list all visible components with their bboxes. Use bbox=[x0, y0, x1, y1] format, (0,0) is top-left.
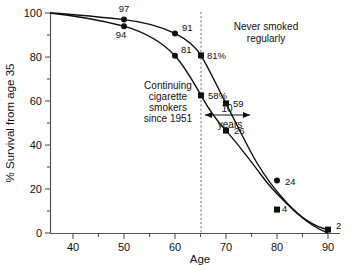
y-tick-label-20: 20 bbox=[30, 183, 42, 195]
annotation-smokers-line3: smokers bbox=[149, 102, 187, 113]
point-label-smokers-age60: 81 bbox=[181, 44, 192, 55]
annotation-smokers-line4: since 1951 bbox=[144, 113, 193, 124]
point-label-smokers-age50: 94 bbox=[116, 29, 127, 40]
data-point-smokers-age90 bbox=[274, 207, 280, 213]
x-tick-label-60: 60 bbox=[169, 241, 181, 253]
data-point-smokers-age60 bbox=[172, 53, 178, 59]
data-point-never-smoked-age90 bbox=[274, 177, 280, 183]
chart-plot-area: 100 80 60 40 20 0 40 50 60 70 80 90 Age … bbox=[0, 0, 354, 265]
data-point-never-smoked-age50 bbox=[121, 17, 127, 23]
x-tick-label-40: 40 bbox=[67, 241, 79, 253]
data-point-never-smoked-age100 bbox=[325, 227, 331, 233]
point-label-never-smoked-age80: 59 bbox=[233, 98, 244, 109]
point-label-never-smoked-age50: 97 bbox=[119, 3, 130, 14]
annotation-smokers-line1: Continuing bbox=[144, 80, 192, 91]
data-point-never-smoked-age60 bbox=[172, 30, 178, 36]
data-point-smokers-age70 bbox=[198, 92, 204, 98]
data-point-never-smoked-age70 bbox=[198, 52, 204, 58]
x-tick-label-90: 90 bbox=[322, 241, 334, 253]
x-axis-title: Age bbox=[190, 253, 210, 265]
point-label-never-smoked-age90: 24 bbox=[285, 176, 296, 187]
y-tick-label-40: 40 bbox=[30, 139, 42, 151]
x-axis bbox=[51, 234, 341, 240]
y-axis-title: % Survival from age 35 bbox=[4, 64, 16, 183]
y-tick-label-80: 80 bbox=[30, 51, 42, 63]
y-tick-label-0: 0 bbox=[36, 227, 42, 239]
point-label-never-smoked-age60: 91 bbox=[182, 22, 193, 33]
annotation-gap-years-unit: years bbox=[218, 119, 242, 130]
point-label-smokers-age90: 4 bbox=[282, 203, 287, 214]
x-tick-label-50: 50 bbox=[118, 241, 130, 253]
point-label-never-smoked-age100: 2 bbox=[336, 220, 341, 231]
x-tick-label-70: 70 bbox=[220, 241, 232, 253]
annotation-never-smoked-line1: Never smoked bbox=[234, 21, 298, 32]
point-label-never-smoked-age70: 81% bbox=[207, 50, 227, 61]
y-tick-label-60: 60 bbox=[30, 95, 42, 107]
x-tick-label-80: 80 bbox=[271, 241, 283, 253]
annotation-gap-years-number: 10 bbox=[221, 103, 233, 114]
annotation-never-smoked-line2: regularly bbox=[247, 33, 285, 44]
survival-curve-chart: 100 80 60 40 20 0 40 50 60 70 80 90 Age … bbox=[0, 0, 354, 265]
annotation-smokers-line2: cigarette bbox=[149, 91, 188, 102]
point-label-smokers-age70: 58% bbox=[208, 90, 228, 101]
y-tick-label-100: 100 bbox=[24, 7, 42, 19]
y-axis bbox=[45, 12, 51, 234]
